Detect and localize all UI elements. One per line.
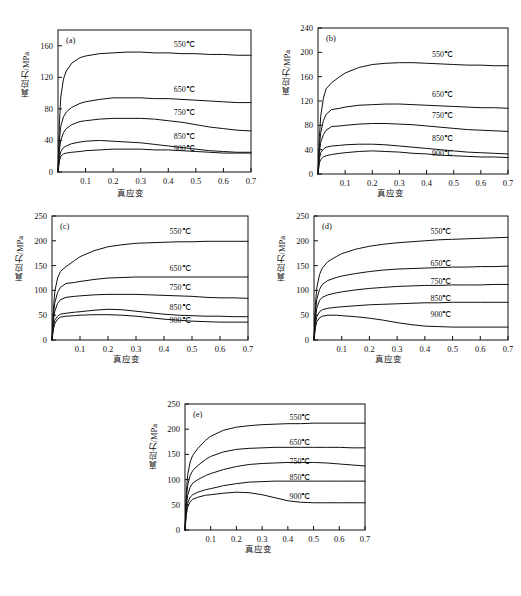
y-tick-label: 160 <box>40 41 53 51</box>
series-curve <box>185 447 365 530</box>
y-tick-label: 150 <box>34 261 47 271</box>
x-tick-label: 0.1 <box>75 344 86 354</box>
y-tick-label: 200 <box>34 236 47 246</box>
panel-tag: (e) <box>193 409 203 419</box>
series-curve <box>52 294 248 340</box>
series-label: 750℃ <box>289 457 310 466</box>
y-tick-label: 100 <box>167 475 180 485</box>
series-label: 650℃ <box>430 259 451 268</box>
x-tick-label: 0.1 <box>340 178 351 188</box>
series-curve <box>314 237 508 340</box>
x-axis-label: 真应变 <box>100 186 160 198</box>
x-tick-label: 0.1 <box>336 344 347 354</box>
y-tick-label: 40 <box>45 135 54 145</box>
y-tick-label: 0 <box>43 335 47 345</box>
x-tick-label: 0.3 <box>135 176 146 186</box>
x-tick-label: 0.6 <box>334 534 345 544</box>
series-label: 900℃ <box>174 144 195 153</box>
x-tick-label: 0.4 <box>421 178 432 188</box>
series-curve <box>185 481 365 530</box>
series-label: 850℃ <box>430 294 451 303</box>
x-axis-label: 真应变 <box>360 186 420 198</box>
y-axis-label: 真应力/MPa <box>14 236 26 281</box>
x-tick-label: 0.6 <box>218 176 229 186</box>
x-tick-label: 0.2 <box>108 176 119 186</box>
series-label: 900℃ <box>432 149 453 158</box>
series-label: 750℃ <box>430 277 451 286</box>
x-tick-label: 0.7 <box>503 344 514 354</box>
series-curve <box>52 277 248 340</box>
series-label: 750℃ <box>432 111 453 120</box>
series-curve <box>314 266 508 340</box>
series-curve <box>185 492 365 530</box>
series-curve <box>58 52 251 172</box>
x-tick-label: 0.7 <box>243 344 254 354</box>
series-curve <box>58 118 251 172</box>
x-tick-label: 0.7 <box>360 534 371 544</box>
series-label: 550℃ <box>430 227 451 236</box>
series-label: 650℃ <box>170 264 191 273</box>
panel-tag: (d) <box>322 221 332 231</box>
series-label: 850℃ <box>170 303 191 312</box>
y-tick-label: 0 <box>305 335 309 345</box>
y-tick-label: 250 <box>167 399 180 409</box>
series-label: 850℃ <box>432 134 453 143</box>
y-tick-label: 250 <box>296 211 309 221</box>
panel-tag: (b) <box>326 33 336 43</box>
x-tick-label: 0.1 <box>205 534 216 544</box>
y-tick-label: 200 <box>300 47 313 57</box>
x-axis-label: 真应变 <box>96 352 156 364</box>
series-curve <box>185 423 365 530</box>
series-label: 900℃ <box>289 492 310 501</box>
y-tick-label: 150 <box>296 261 309 271</box>
panel-tag: (a) <box>66 35 76 45</box>
series-curve <box>318 144 508 174</box>
x-tick-label: 0.7 <box>503 178 514 188</box>
series-label: 750℃ <box>170 283 191 292</box>
series-label: 550℃ <box>170 227 191 236</box>
y-axis-label: 真应力/MPa <box>281 50 293 95</box>
x-tick-label: 0.4 <box>420 344 431 354</box>
y-tick-label: 120 <box>40 72 53 82</box>
series-label: 550℃ <box>289 413 310 422</box>
x-tick-label: 0.1 <box>80 176 91 186</box>
plot-frame <box>58 30 251 172</box>
series-label: 650℃ <box>432 90 453 99</box>
x-tick-label: 0.5 <box>191 176 202 186</box>
y-axis-label: 真应力/MPa <box>148 424 160 469</box>
series-curve <box>318 151 508 174</box>
series-curve <box>52 315 248 340</box>
x-tick-label: 0.4 <box>159 344 170 354</box>
y-tick-label: 250 <box>34 211 47 221</box>
series-label: 850℃ <box>289 473 310 482</box>
y-tick-label: 200 <box>296 236 309 246</box>
x-tick-label: 0.4 <box>163 176 174 186</box>
plot-frame <box>314 216 508 340</box>
y-tick-label: 0 <box>176 525 180 535</box>
series-label: 550℃ <box>174 40 195 49</box>
series-label: 650℃ <box>174 85 195 94</box>
x-tick-label: 0.7 <box>246 176 257 186</box>
series-curve <box>58 98 251 172</box>
plot-frame <box>185 404 365 530</box>
y-tick-label: 0 <box>49 167 53 177</box>
y-tick-label: 120 <box>300 96 313 106</box>
series-curve <box>318 104 508 174</box>
x-tick-label: 0.5 <box>187 344 198 354</box>
y-tick-label: 80 <box>45 104 54 114</box>
x-tick-label: 0.6 <box>215 344 226 354</box>
y-axis-label: 真应力/MPa <box>20 52 32 97</box>
series-curve <box>314 315 508 340</box>
series-curve <box>58 140 251 172</box>
y-tick-label: 200 <box>167 424 180 434</box>
x-axis-label: 真应变 <box>358 352 418 364</box>
y-tick-label: 0 <box>309 169 313 179</box>
y-axis-label: 真应力/MPa <box>276 236 288 281</box>
y-tick-label: 50 <box>301 310 310 320</box>
series-curve <box>185 462 365 530</box>
series-label: 900℃ <box>170 316 191 325</box>
series-curve <box>314 284 508 340</box>
y-tick-label: 240 <box>300 23 313 33</box>
y-tick-label: 50 <box>39 310 48 320</box>
series-curve <box>318 63 508 174</box>
